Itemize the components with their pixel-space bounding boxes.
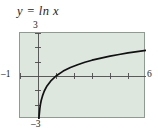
y-max-label: 3 [33,20,38,30]
equation-title: y = ln x [17,4,59,18]
axes [20,33,146,119]
plot-svg [20,33,146,119]
y-min-label: –3 [31,119,41,129]
ln-curve [39,50,146,119]
x-min-label: –1 [1,69,11,79]
x-max-label: 6 [147,69,152,79]
plot-panel [19,32,145,118]
graph-figure: y = ln x [0,0,158,138]
